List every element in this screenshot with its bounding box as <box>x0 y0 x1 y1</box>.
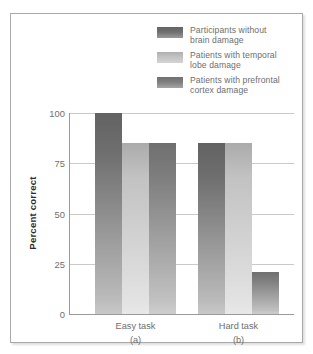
legend-label-patients-temporal-lobe-damage: Patients with temporal lobe damage <box>190 50 277 71</box>
bar <box>122 143 149 314</box>
legend-swatch-patients-prefrontal-cortex-damage <box>157 77 183 88</box>
y-axis-title: Percent correct <box>27 176 38 249</box>
legend-label-patients-prefrontal-cortex-damage: Patients with prefrontal cortex damage <box>190 75 280 96</box>
plot-area: 0255075100Easy task(a)Hard task(b) <box>69 113 294 315</box>
chart-legend: Participants without brain damage Patien… <box>157 25 307 99</box>
legend-item: Patients with prefrontal cortex damage <box>157 75 307 96</box>
legend-label-participants-without-brain-damage: Participants without brain damage <box>190 25 267 46</box>
legend-item: Patients with temporal lobe damage <box>157 50 307 71</box>
bar <box>225 143 252 314</box>
x-axis-group-sublabel: (b) <box>219 333 258 347</box>
bar <box>149 143 176 314</box>
bar-group-hard-task: Hard task(b) <box>198 113 279 314</box>
legend-swatch-patients-temporal-lobe-damage <box>157 52 183 63</box>
bar-group-easy-task: Easy task(a) <box>95 113 176 314</box>
legend-item: Participants without brain damage <box>157 25 307 46</box>
bar <box>95 113 122 314</box>
bar <box>198 143 225 314</box>
x-axis-group-sublabel: (a) <box>116 333 156 347</box>
y-tick-label: 0 <box>60 309 65 320</box>
y-tick-label: 100 <box>49 108 65 119</box>
bar <box>252 272 279 314</box>
x-axis-group-label: Easy task(a) <box>116 314 156 347</box>
y-tick-label: 75 <box>55 158 65 169</box>
x-axis-group-label: Hard task(b) <box>219 314 258 347</box>
figure-frame: Participants without brain damage Patien… <box>10 13 303 343</box>
legend-swatch-participants-without-brain-damage <box>157 27 183 38</box>
y-tick-label: 50 <box>55 208 65 219</box>
y-tick-label: 25 <box>55 258 65 269</box>
